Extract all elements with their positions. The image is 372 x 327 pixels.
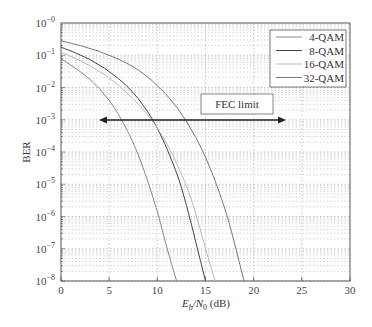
- arrow-right-icon: [278, 117, 286, 124]
- fec-annotation: FEC limit: [99, 94, 286, 124]
- x-tick-label: 15: [200, 284, 212, 296]
- curve-4-qam: [61, 58, 177, 281]
- curve-8-qam: [61, 47, 206, 281]
- y-tick-label: 10−5: [35, 176, 55, 190]
- x-tick-label: 25: [296, 284, 308, 296]
- curve-16-qam: [61, 52, 215, 281]
- arrow-left-icon: [99, 117, 107, 124]
- ber-curves: [61, 41, 244, 281]
- curve-32-qam: [61, 41, 244, 281]
- fec-label: FEC limit: [215, 98, 259, 110]
- y-tick-label: 10−8: [35, 273, 55, 287]
- x-axis-label: Eb/N0 (dB): [181, 297, 230, 312]
- y-tick-label: 10−2: [35, 80, 55, 94]
- y-tick-label: 10−3: [35, 112, 55, 126]
- y-axis-label: BER: [20, 141, 32, 163]
- y-tick-label: 10−0: [35, 15, 55, 29]
- x-tick-label: 20: [248, 284, 260, 296]
- ber-chart: 10−010−110−210−310−410−510−610−710−8 051…: [0, 0, 372, 327]
- x-tick-label: 10: [152, 284, 164, 296]
- legend-label: 32-QAM: [304, 72, 345, 84]
- legend-label: 8-QAM: [309, 45, 344, 57]
- x-axis-ticks: 051015202530: [58, 277, 356, 296]
- x-tick-label: 5: [106, 284, 112, 296]
- x-tick-label: 0: [58, 284, 64, 296]
- y-tick-label: 10−1: [35, 47, 55, 61]
- y-tick-label: 10−4: [35, 144, 55, 158]
- legend-label: 16-QAM: [304, 58, 345, 70]
- y-axis-ticks: 10−010−110−210−310−410−510−610−710−8: [35, 15, 55, 287]
- x-tick-label: 30: [345, 284, 357, 296]
- y-tick-label: 10−7: [35, 241, 55, 255]
- legend: 4-QAM8-QAM16-QAM32-QAM: [270, 30, 346, 87]
- legend-label: 4-QAM: [309, 31, 344, 43]
- y-tick-label: 10−6: [35, 209, 55, 223]
